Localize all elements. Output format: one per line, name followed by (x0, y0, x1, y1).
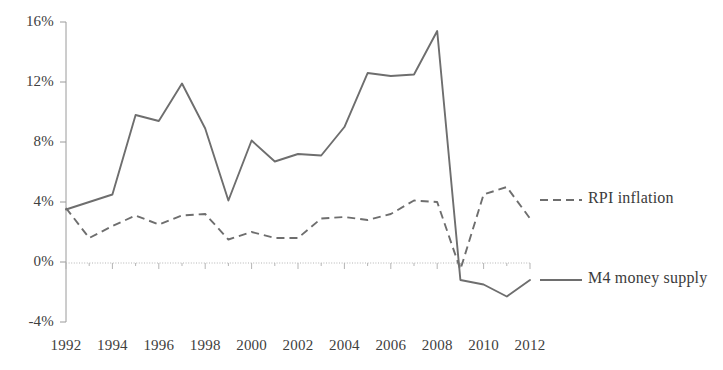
legend-item-m4-money-supply: M4 money supply (540, 270, 707, 286)
x-axis-tick-marks (66, 263, 530, 269)
legend-swatch-solid-icon (540, 272, 582, 284)
plot-area (0, 0, 723, 370)
y-axis-tick-marks (60, 22, 66, 322)
legend-label-rpi-inflation: RPI inflation (588, 190, 674, 206)
series-group (66, 31, 530, 297)
legend-label-m4-money-supply: M4 money supply (588, 270, 707, 286)
series-line-rpi-inflation (66, 187, 530, 270)
legend-item-rpi-inflation: RPI inflation (540, 190, 674, 206)
legend-swatch-dashed-icon (540, 192, 582, 204)
chart-container: -4%0%4%8%12%16% 199219941996199820002002… (0, 0, 723, 370)
series-line-m4-money-supply (66, 31, 530, 297)
